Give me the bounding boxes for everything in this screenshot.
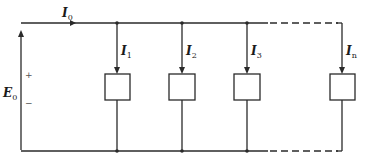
supply-current-label: I0 bbox=[61, 6, 73, 22]
source-voltage-label: E0 bbox=[2, 86, 17, 102]
junction-node-bottom-1 bbox=[115, 149, 119, 153]
source-plus-sign: + bbox=[25, 70, 33, 80]
load-element-n bbox=[330, 74, 355, 100]
branch-current-label-1: I1 bbox=[120, 44, 132, 60]
branch-1: I1 bbox=[105, 21, 132, 153]
branch-n: In bbox=[330, 23, 357, 151]
branch-current-arrow-icon bbox=[114, 67, 120, 74]
load-element-3 bbox=[234, 74, 260, 100]
branch-current-label-n: In bbox=[345, 44, 357, 60]
branch-current-arrow-icon bbox=[179, 67, 185, 74]
branch-current-label-3: I3 bbox=[250, 44, 262, 60]
parallel-circuit-diagram: I0 + − E0 I1 I2 bbox=[0, 0, 370, 161]
branch-current-label-2: I2 bbox=[185, 44, 197, 60]
branch-3: I3 bbox=[234, 21, 262, 153]
branch-current-arrow-icon bbox=[339, 67, 345, 74]
branch-2: I2 bbox=[169, 21, 197, 153]
junction-node-bottom-3 bbox=[245, 149, 249, 153]
source-minus-sign: − bbox=[25, 98, 33, 108]
branch-current-arrow-icon bbox=[244, 67, 250, 74]
source-voltage-arrow-icon bbox=[18, 30, 24, 37]
load-element-2 bbox=[169, 74, 195, 100]
junction-node-bottom-2 bbox=[180, 149, 184, 153]
load-element-1 bbox=[105, 74, 130, 100]
